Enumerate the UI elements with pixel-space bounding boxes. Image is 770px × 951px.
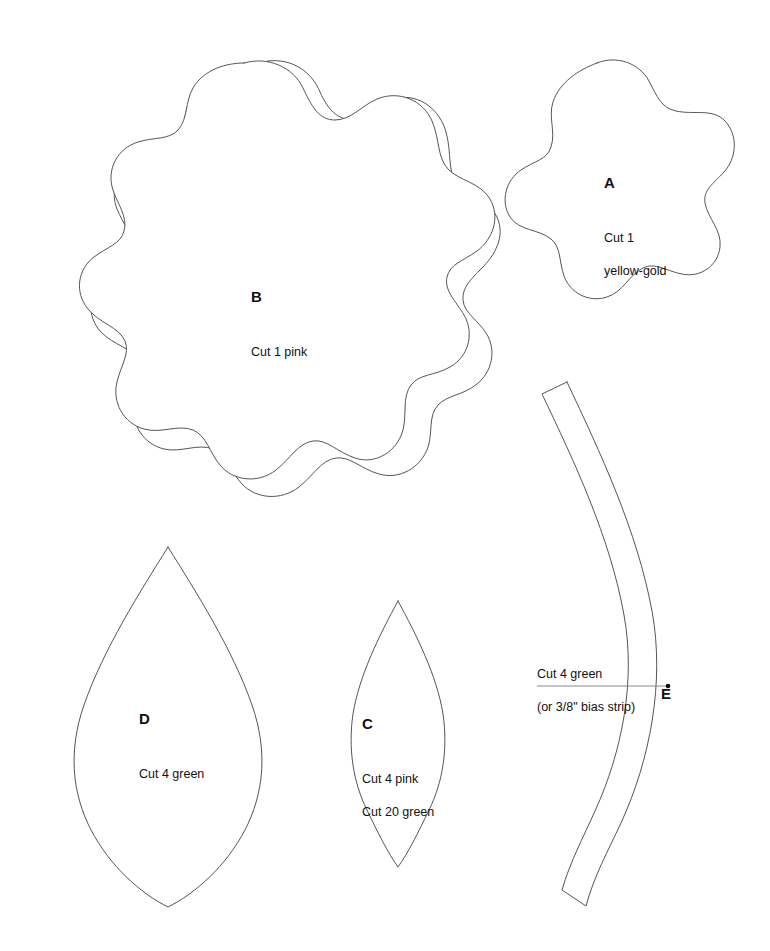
piece-d-label: D Cut 4 green — [139, 688, 204, 820]
piece-b-instruction-line-1: Cut 1 pink — [251, 344, 307, 360]
piece-e-label: E — [661, 663, 671, 724]
piece-c-instruction-line-2: Cut 20 green — [362, 804, 434, 820]
piece-a-instruction-line-1: Cut 1 — [604, 230, 667, 246]
piece-a-instruction-line-2: yellow-gold — [604, 263, 667, 279]
piece-c-letter: C — [362, 714, 434, 734]
piece-c-label: C Cut 4 pink Cut 20 green — [362, 693, 434, 857]
piece-e-instruction-line-1: Cut 4 green — [537, 666, 635, 682]
piece-b-letter: B — [251, 287, 307, 307]
piece-d-instruction-line-1: Cut 4 green — [139, 766, 204, 782]
piece-d-letter: D — [139, 709, 204, 729]
piece-a-instructions: Cut 1 yellow-gold — [604, 214, 667, 295]
piece-c-instruction-line-1: Cut 4 pink — [362, 771, 434, 787]
piece-e-instructions: Cut 4 green (or 3/8" bias strip) — [537, 650, 635, 731]
piece-c-instructions: Cut 4 pink Cut 20 green — [362, 755, 434, 836]
piece-b-label: B Cut 1 pink — [251, 266, 307, 398]
piece-a-label: A Cut 1 yellow-gold — [604, 152, 667, 316]
piece-e-letter: E — [661, 684, 671, 704]
piece-a-letter: A — [604, 173, 667, 193]
piece-b-instructions: Cut 1 pink — [251, 328, 307, 377]
piece-e-outline — [542, 382, 657, 906]
pattern-sheet: A Cut 1 yellow-gold B Cut 1 pink C Cut 4… — [0, 0, 770, 951]
piece-d-instructions: Cut 4 green — [139, 750, 204, 799]
piece-e-instruction-line-2: (or 3/8" bias strip) — [537, 699, 635, 715]
